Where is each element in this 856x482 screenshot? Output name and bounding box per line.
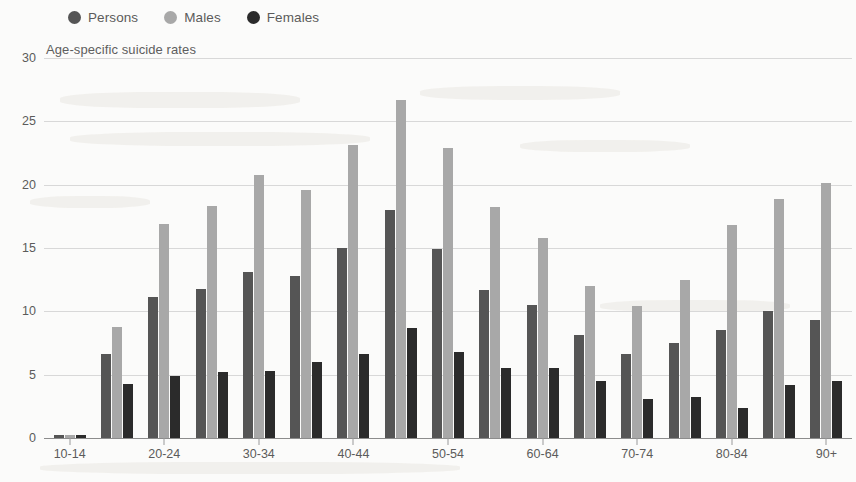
bar-persons-40-44[interactable]	[337, 248, 347, 438]
bar-persons-65-69[interactable]	[574, 335, 584, 438]
legend-item-males[interactable]: Males	[164, 10, 221, 25]
bar-males-50-54[interactable]	[443, 148, 453, 438]
bar-group	[141, 58, 188, 438]
circle-marker-icon	[247, 11, 260, 24]
y-axis-tick-label: 30	[22, 51, 36, 65]
legend-label-persons: Persons	[88, 10, 138, 25]
x-axis-cell: 90+	[803, 438, 850, 468]
legend-item-persons[interactable]: Persons	[68, 10, 138, 25]
bar-group	[330, 58, 377, 438]
x-axis-tick-mark	[353, 438, 354, 445]
x-axis-tick-label: 10-14	[54, 447, 86, 461]
x-axis-cell: 30-34	[235, 438, 282, 468]
x-axis-cell: 80-84	[708, 438, 755, 468]
bar-persons-55-59[interactable]	[479, 290, 489, 438]
legend-item-females[interactable]: Females	[247, 10, 319, 25]
bar-males-60-64[interactable]	[538, 238, 548, 438]
bar-males-90+[interactable]	[821, 183, 831, 438]
x-axis-tick-label: 80-84	[716, 447, 748, 461]
chart-legend: Persons Males Females	[0, 4, 856, 30]
x-axis-tick-mark	[542, 438, 543, 445]
circle-marker-icon	[164, 11, 177, 24]
bar-females-75-79[interactable]	[691, 397, 701, 438]
x-axis-cell	[282, 438, 329, 468]
bar-females-45-49[interactable]	[407, 328, 417, 438]
bar-males-65-69[interactable]	[585, 286, 595, 438]
bar-females-30-34[interactable]	[265, 371, 275, 438]
x-axis-tick-label: 70-74	[621, 447, 653, 461]
bar-males-30-34[interactable]	[254, 175, 264, 438]
bar-males-75-79[interactable]	[680, 280, 690, 438]
bar-persons-70-74[interactable]	[621, 354, 631, 438]
bar-persons-85-89[interactable]	[763, 311, 773, 438]
x-axis-cell: 70-74	[614, 438, 661, 468]
y-axis-tick-label: 10	[22, 304, 36, 318]
bar-group	[424, 58, 471, 438]
bar-males-85-89[interactable]	[774, 199, 784, 438]
bar-persons-75-79[interactable]	[669, 343, 679, 438]
bar-persons-50-54[interactable]	[432, 249, 442, 438]
x-axis-cell: 10-14	[46, 438, 93, 468]
bar-females-70-74[interactable]	[643, 399, 653, 438]
bar-females-40-44[interactable]	[359, 354, 369, 438]
bar-females-80-84[interactable]	[738, 408, 748, 438]
bar-series-container	[44, 58, 852, 438]
x-axis-cell: 60-64	[519, 438, 566, 468]
bar-group	[566, 58, 613, 438]
bar-group	[803, 58, 850, 438]
x-axis-tick-label: 60-64	[527, 447, 559, 461]
bar-group	[282, 58, 329, 438]
bar-persons-25-29[interactable]	[196, 289, 206, 438]
bar-males-15-19[interactable]	[112, 327, 122, 438]
y-axis-tick-label: 20	[22, 178, 36, 192]
bar-males-25-29[interactable]	[207, 206, 217, 438]
bar-group	[377, 58, 424, 438]
bar-group	[708, 58, 755, 438]
x-axis-tick-mark	[258, 438, 259, 445]
x-axis-tick-label: 30-34	[243, 447, 275, 461]
bar-males-45-49[interactable]	[396, 100, 406, 438]
bar-males-20-24[interactable]	[159, 224, 169, 438]
bar-females-90+[interactable]	[832, 381, 842, 438]
bar-males-70-74[interactable]	[632, 306, 642, 438]
bar-persons-30-34[interactable]	[243, 272, 253, 438]
y-axis-tick-label: 25	[22, 114, 36, 128]
bar-persons-45-49[interactable]	[385, 210, 395, 438]
bar-females-20-24[interactable]	[170, 376, 180, 438]
bar-group	[188, 58, 235, 438]
bar-females-15-19[interactable]	[123, 384, 133, 438]
bar-males-55-59[interactable]	[490, 207, 500, 438]
bar-group	[472, 58, 519, 438]
bar-males-35-39[interactable]	[301, 190, 311, 438]
bar-group	[661, 58, 708, 438]
y-axis-tick-label: 0	[29, 431, 36, 445]
bar-persons-15-19[interactable]	[101, 354, 111, 438]
bar-females-55-59[interactable]	[501, 368, 511, 438]
x-axis-tick-label: 50-54	[432, 447, 464, 461]
bar-persons-20-24[interactable]	[148, 297, 158, 438]
x-axis-cell: 40-44	[330, 438, 377, 468]
bar-males-80-84[interactable]	[727, 225, 737, 438]
bar-males-40-44[interactable]	[348, 145, 358, 438]
bar-females-65-69[interactable]	[596, 381, 606, 438]
y-axis-tick-label: 15	[22, 241, 36, 255]
bar-females-25-29[interactable]	[218, 372, 228, 438]
bar-group	[519, 58, 566, 438]
bar-persons-60-64[interactable]	[527, 305, 537, 438]
x-axis-tick-label: 40-44	[337, 447, 369, 461]
x-axis-tick-mark	[164, 438, 165, 445]
x-axis-tick-mark	[69, 438, 70, 445]
bar-persons-80-84[interactable]	[716, 330, 726, 438]
bar-females-60-64[interactable]	[549, 368, 559, 438]
bar-persons-35-39[interactable]	[290, 276, 300, 438]
bar-females-50-54[interactable]	[454, 352, 464, 438]
bar-females-85-89[interactable]	[785, 385, 795, 438]
x-axis-tick-mark	[826, 438, 827, 445]
chart-canvas: Persons Males Females Age-specific suici…	[0, 0, 856, 482]
bar-group	[235, 58, 282, 438]
x-axis-cell	[377, 438, 424, 468]
bar-persons-90+[interactable]	[810, 320, 820, 438]
legend-label-females: Females	[267, 10, 319, 25]
bar-females-35-39[interactable]	[312, 362, 322, 438]
x-axis-cell: 20-24	[141, 438, 188, 468]
